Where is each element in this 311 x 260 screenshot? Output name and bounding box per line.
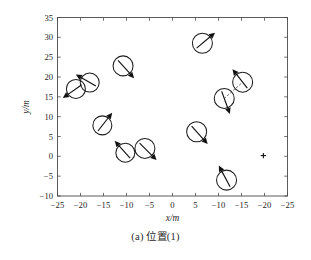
agent-heading-line bbox=[197, 37, 211, 49]
x-tick-label: −10 bbox=[212, 200, 225, 210]
y-tick-label: 20 bbox=[44, 72, 53, 82]
y-tick-label: 10 bbox=[44, 112, 53, 122]
x-tick-label: −5 bbox=[145, 200, 154, 210]
figure-container: −25−20−15−10−505−10−15−20−25 35302520151… bbox=[0, 0, 311, 260]
agent-marker bbox=[135, 138, 157, 160]
y-axis-title: y/m bbox=[21, 100, 31, 115]
figure-caption: (a) 位置(1) bbox=[0, 228, 311, 243]
agent-heading-line bbox=[236, 74, 247, 88]
agent-heading-line bbox=[68, 85, 82, 95]
y-tick-label: 0 bbox=[49, 151, 53, 161]
agent-heading-line bbox=[222, 91, 228, 108]
agent-marker bbox=[187, 122, 208, 144]
agent-marker bbox=[76, 73, 99, 92]
agent-heading-line bbox=[222, 171, 230, 187]
agent-marker bbox=[232, 69, 252, 92]
agent-marker bbox=[217, 166, 237, 191]
agent-marker bbox=[115, 141, 135, 162]
agent-markers bbox=[63, 33, 253, 190]
x-tick-label: 0 bbox=[170, 200, 174, 210]
y-tick-label: 15 bbox=[44, 92, 53, 102]
y-tick-label: 35 bbox=[44, 13, 53, 23]
x-tick-label: −25 bbox=[281, 200, 294, 210]
y-tick-label: 25 bbox=[44, 52, 53, 62]
x-tick-label: −15 bbox=[97, 200, 110, 210]
scatter-plot: −25−20−15−10−505−10−15−20−25 35302520151… bbox=[0, 0, 311, 260]
agent-heading-line bbox=[119, 145, 130, 158]
y-tick-label: −10 bbox=[40, 191, 53, 201]
agent-heading-line bbox=[140, 143, 153, 156]
agent-marker bbox=[192, 33, 215, 54]
x-tick-label: −20 bbox=[258, 200, 271, 210]
y-tick-label: −5 bbox=[44, 171, 53, 181]
x-axis-tick-labels: −25−20−15−10−505−10−15−20−25 bbox=[51, 200, 294, 210]
x-tick-label: −15 bbox=[235, 200, 248, 210]
agent-heading-line bbox=[81, 78, 96, 87]
goal-marker bbox=[261, 153, 266, 158]
agent-heading-line bbox=[118, 60, 130, 73]
plot-frame bbox=[58, 18, 288, 197]
x-axis-ticks bbox=[58, 18, 288, 197]
agent-heading-line bbox=[98, 118, 109, 131]
x-tick-label: −20 bbox=[74, 200, 87, 210]
y-axis-tick-labels: 35302520151050−5−10 bbox=[40, 13, 53, 202]
agent-heading-line bbox=[192, 126, 204, 139]
goal-markers bbox=[261, 153, 266, 158]
y-tick-label: 5 bbox=[49, 132, 53, 142]
agent-marker bbox=[113, 56, 134, 78]
x-tick-label: 5 bbox=[193, 200, 197, 210]
y-tick-label: 30 bbox=[44, 32, 53, 42]
y-axis-ticks bbox=[58, 18, 288, 197]
x-tick-label: −10 bbox=[120, 200, 133, 210]
x-axis-title: x/m bbox=[165, 213, 180, 223]
agent-marker bbox=[93, 113, 112, 135]
